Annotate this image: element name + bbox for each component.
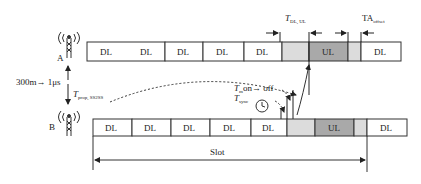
- top-frame-label: DL: [177, 47, 189, 57]
- slot-label: Slot: [210, 147, 225, 157]
- tdd-timing-diagram: A B 300m→ 1μs Tprop, SS2SS DL DL DL DL D…: [0, 0, 421, 184]
- bottom-frame-label: DL: [380, 123, 392, 133]
- bottom-frame-guard: [287, 119, 315, 136]
- bottom-frame-guard: [354, 119, 367, 136]
- top-markers: [266, 32, 374, 95]
- bottom-frame-label: DL: [223, 123, 235, 133]
- t-dl-ul-label: TDL, UL: [285, 13, 306, 25]
- sync-arrow: [275, 101, 284, 112]
- bottom-frame-label: UL: [328, 123, 340, 133]
- top-frame-label: DL: [374, 47, 386, 57]
- clock-icon: [256, 100, 268, 112]
- bottom-frame-label: DL: [105, 123, 117, 133]
- top-frame-label: DL: [256, 47, 268, 57]
- top-frame-label: DL: [140, 47, 152, 57]
- top-frame-guard: [348, 42, 361, 61]
- bottom-switch-markers: [281, 90, 293, 120]
- prop-label: Tprop, SS2SS: [73, 89, 104, 101]
- t-sync-label: Tsync: [234, 93, 249, 104]
- top-frame-label: DL: [100, 47, 112, 57]
- bottom-frame-label: DL: [144, 123, 156, 133]
- switch-curve: [297, 65, 309, 115]
- top-frame-label: UL: [322, 47, 334, 57]
- top-row-frames: DL DL DL DL DL UL DL: [87, 42, 401, 61]
- tower-b-icon: [59, 111, 80, 136]
- station-b-label: B: [49, 122, 55, 132]
- station-a-label: A: [57, 53, 64, 63]
- ta-offset-label: TAoffset: [362, 13, 385, 24]
- bottom-frame-label: DL: [183, 123, 195, 133]
- bottom-row-frames: DL DL DL DL DL UL DL: [93, 119, 407, 136]
- top-frame-dl: [87, 42, 165, 61]
- distance-label: 300m→ 1μs: [16, 77, 61, 87]
- t-m-label: Tmon→ off: [234, 83, 274, 94]
- top-frame-label: DL: [216, 47, 228, 57]
- top-frame-guard: [282, 42, 309, 61]
- bottom-frame-label: DL: [262, 123, 274, 133]
